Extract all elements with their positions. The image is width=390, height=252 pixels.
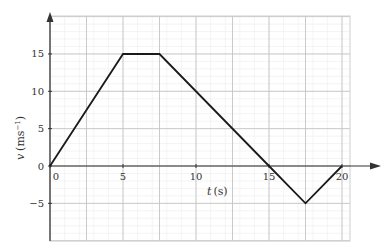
x-tick-label: 0	[53, 171, 59, 182]
y-axis-label: v(ms−1)	[14, 116, 27, 160]
x-tick-label: 5	[120, 171, 126, 182]
y-tick-label: −5	[29, 198, 44, 209]
y-tick-label: 15	[31, 48, 44, 59]
x-tick-label: 20	[336, 171, 349, 182]
x-tick-label: 15	[263, 171, 276, 182]
x-axis-arrow-icon	[370, 163, 381, 170]
velocity-time-graph: 05101520−5051015 t(s) v(ms−1)	[0, 0, 390, 252]
y-tick-label: 0	[38, 161, 44, 172]
x-axis-label: t(s)	[207, 185, 228, 198]
y-tick-label: 10	[31, 86, 44, 97]
y-tick-label: 5	[38, 123, 44, 134]
x-tick-label: 10	[190, 171, 203, 182]
major-grid	[50, 16, 350, 241]
